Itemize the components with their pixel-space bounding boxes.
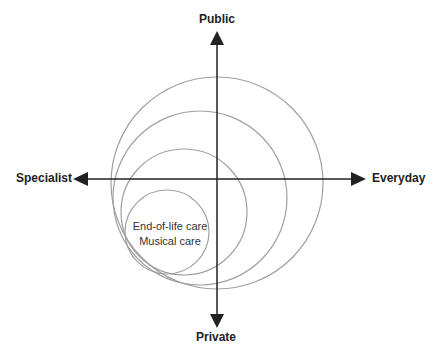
axis-label-everyday: Everyday xyxy=(372,171,425,185)
arrow-down-icon xyxy=(210,314,224,328)
label-musical-care: Musical care xyxy=(128,234,212,249)
arrow-right-icon xyxy=(351,172,366,186)
arrow-left-icon xyxy=(73,172,88,186)
axis-label-specialist: Specialist xyxy=(16,171,72,185)
arrow-up-icon xyxy=(210,31,224,45)
axes xyxy=(73,31,366,328)
inner-circle-label: End-of-life care Musical care xyxy=(128,219,212,249)
axis-label-public: Public xyxy=(199,12,235,26)
axis-label-private: Private xyxy=(196,330,236,344)
label-end-of-life-care: End-of-life care xyxy=(128,219,212,234)
